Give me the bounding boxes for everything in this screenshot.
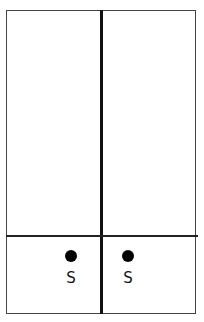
right-dot-label: S: [122, 271, 134, 286]
left-dot-label: S: [65, 271, 77, 286]
vertical-divider: [100, 10, 103, 314]
left-dot-marker: [65, 250, 77, 262]
horizontal-divider: [6, 235, 198, 237]
right-dot-marker: [122, 250, 134, 262]
